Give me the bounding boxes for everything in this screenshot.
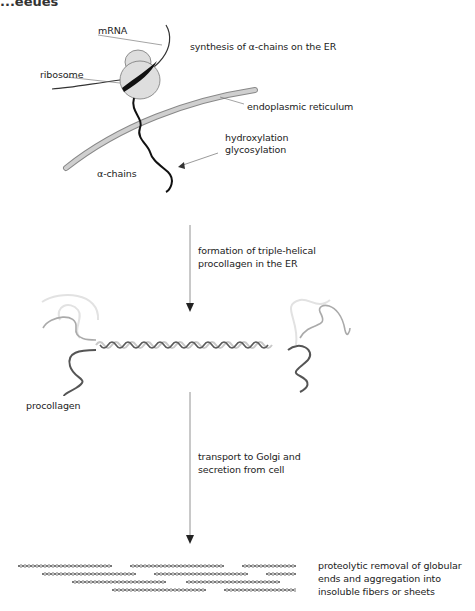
ribosome-label: ribosome bbox=[40, 69, 83, 82]
arrow-down-1 bbox=[186, 225, 194, 312]
stage3-line2: ends and aggregation into bbox=[318, 573, 441, 586]
collagen-fibers bbox=[18, 566, 296, 590]
procollagen-molecule bbox=[42, 295, 350, 396]
mrna-label: mRNA bbox=[98, 25, 127, 38]
stage1-title: synthesis of α-chains on the ER bbox=[190, 41, 336, 54]
procollagen-label: procollagen bbox=[26, 400, 80, 413]
arrow-down-2 bbox=[186, 392, 194, 544]
er-label: endoplasmic reticulum bbox=[247, 101, 353, 114]
step2-line2: secretion from cell bbox=[198, 464, 284, 477]
step1-line1: formation of triple-helical bbox=[198, 245, 316, 258]
glycosylation-label: glycosylation bbox=[225, 144, 286, 157]
step1-line2: procollagen in the ER bbox=[198, 258, 297, 271]
hydroxylation-label: hydroxylation bbox=[225, 132, 289, 145]
stage3-line1: proteolytic removal of globular bbox=[318, 560, 461, 573]
alpha-chains-label: α-chains bbox=[97, 168, 137, 181]
collagen-synthesis-diagram bbox=[0, 0, 475, 611]
stage3-line3: insoluble fibers or sheets bbox=[318, 586, 435, 599]
step2-line1: transport to Golgi and bbox=[198, 451, 301, 464]
ribosome-icon bbox=[120, 50, 160, 99]
